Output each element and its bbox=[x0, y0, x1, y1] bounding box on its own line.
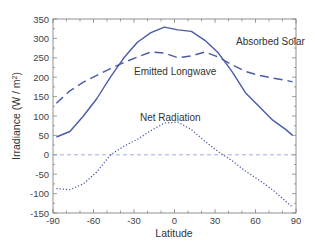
x-tick-label: -90 bbox=[46, 215, 60, 226]
annotation-emitted-longwave: Emitted Longwave bbox=[134, 66, 217, 77]
irradiance-latitude-chart: 350300250200150100500-50-100-150 -90-60-… bbox=[0, 0, 315, 248]
x-tick-label: 60 bbox=[250, 215, 261, 226]
series-net-radiation bbox=[56, 122, 292, 207]
y-tick-label: -100 bbox=[30, 188, 49, 199]
x-axis-title: Latitude bbox=[155, 227, 193, 239]
y-tick-label: 350 bbox=[33, 14, 49, 25]
x-tick-label: 30 bbox=[210, 215, 221, 226]
annotation-net-radiation: Net Radiation bbox=[140, 112, 201, 123]
y-axis-title: Irradiance (W / m2) bbox=[10, 72, 22, 160]
x-tick-label: 90 bbox=[291, 215, 302, 226]
y-tick-label: 200 bbox=[33, 72, 49, 83]
y-tick-label: 50 bbox=[38, 130, 49, 141]
x-tick-label: -30 bbox=[127, 215, 141, 226]
y-tick-label: -50 bbox=[35, 169, 49, 180]
y-tick-label: 150 bbox=[33, 91, 49, 102]
y-tick-label: 0 bbox=[44, 149, 49, 160]
annotation-absorbed-solar: Absorbed Solar bbox=[236, 36, 306, 47]
series-emitted-longwave bbox=[56, 52, 292, 103]
y-tick-label: 100 bbox=[33, 111, 49, 122]
y-tick-label: 300 bbox=[33, 33, 49, 44]
x-tick-label: 0 bbox=[172, 215, 177, 226]
x-tick-label: -60 bbox=[87, 215, 101, 226]
y-tick-label: 250 bbox=[33, 52, 49, 63]
